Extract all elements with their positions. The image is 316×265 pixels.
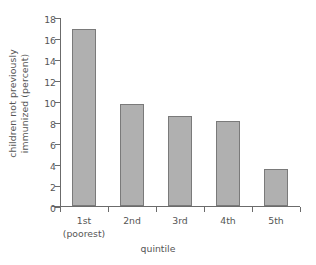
bar bbox=[264, 169, 288, 206]
bar-chart-figure: children not previously immunized (perce… bbox=[0, 0, 316, 265]
y-tick-label: 2 bbox=[50, 181, 56, 192]
x-tick-mark bbox=[252, 207, 253, 212]
y-axis-title-line1: children not previously bbox=[7, 49, 19, 158]
y-tick-label: 12 bbox=[44, 76, 56, 87]
bar bbox=[120, 104, 144, 206]
x-tick-mark bbox=[156, 207, 157, 212]
plot-area: 024681012141618 1st(poorest)2nd3rd4th5th bbox=[60, 18, 300, 207]
x-tick-mark bbox=[300, 207, 301, 212]
y-axis-line bbox=[60, 18, 61, 207]
x-category-label: 1st(poorest) bbox=[60, 214, 108, 240]
x-tick-mark bbox=[108, 207, 109, 212]
x-category-label-main: 2nd bbox=[123, 215, 141, 226]
y-tick-label: 8 bbox=[50, 118, 56, 129]
y-tick-label: 6 bbox=[50, 139, 56, 150]
x-axis-line bbox=[52, 206, 300, 207]
y-tick-label: 0 bbox=[50, 202, 56, 213]
bar bbox=[216, 121, 240, 206]
bar bbox=[72, 29, 96, 206]
x-tick-mark bbox=[204, 207, 205, 212]
x-category-label: 2nd bbox=[108, 214, 156, 227]
y-tick-label: 16 bbox=[44, 34, 56, 45]
x-category-label-main: 3rd bbox=[172, 215, 187, 226]
x-tick-mark bbox=[60, 207, 61, 212]
x-axis-title: quintile bbox=[0, 243, 316, 254]
y-tick-label: 10 bbox=[44, 97, 56, 108]
y-tick-label: 14 bbox=[44, 55, 56, 66]
x-category-label-main: 4th bbox=[220, 215, 235, 226]
y-axis-title-line2: immunized (percent) bbox=[18, 49, 30, 158]
y-tick-label: 18 bbox=[44, 13, 56, 24]
x-category-label: 5th bbox=[252, 214, 300, 227]
y-tick-label: 4 bbox=[50, 160, 56, 171]
x-category-label-main: 1st bbox=[77, 215, 91, 226]
y-axis-title: children not previously immunized (perce… bbox=[0, 0, 36, 207]
x-category-label-sub: (poorest) bbox=[60, 227, 108, 240]
x-category-label: 3rd bbox=[156, 214, 204, 227]
x-category-label: 4th bbox=[204, 214, 252, 227]
bar bbox=[168, 116, 192, 206]
x-category-label-main: 5th bbox=[268, 215, 283, 226]
